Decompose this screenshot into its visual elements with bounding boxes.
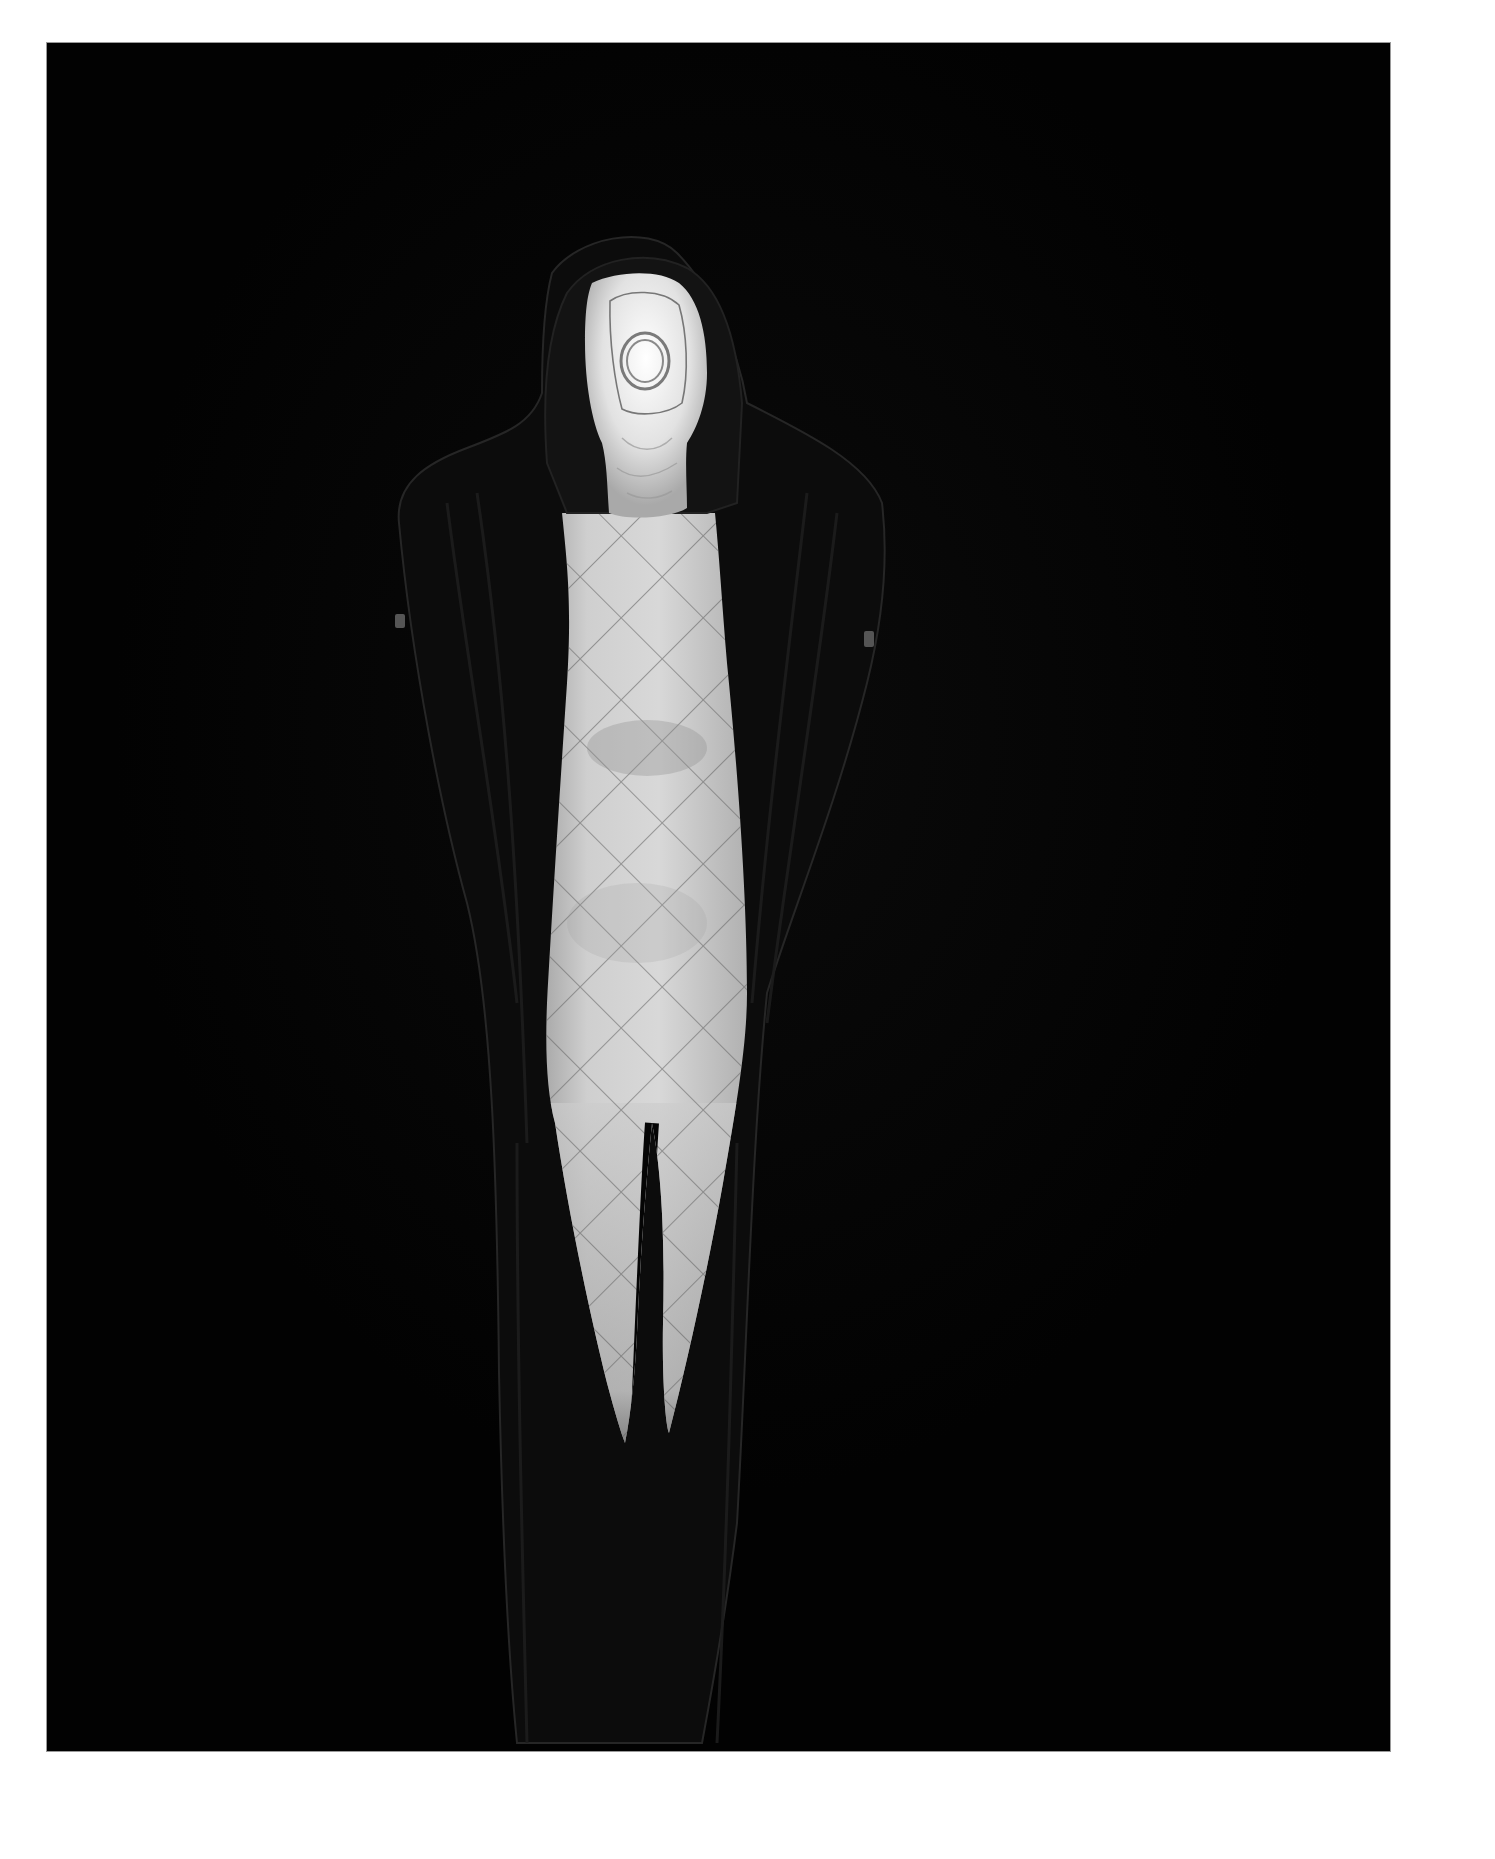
photograph <box>47 43 1390 1751</box>
right-shoulder-tab <box>864 631 874 647</box>
left-shoulder-tab <box>395 614 405 628</box>
photo-frame <box>47 43 1390 1751</box>
